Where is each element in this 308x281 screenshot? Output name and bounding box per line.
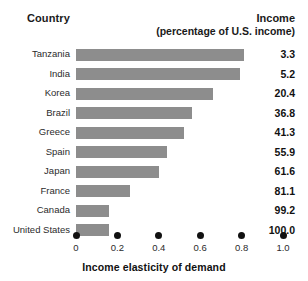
row-income-value: 41.3 <box>275 126 295 138</box>
x-axis-tick-dot <box>197 232 204 239</box>
x-axis-title: Income elasticity of demand <box>0 261 308 273</box>
row-income-value: 5.2 <box>280 68 295 80</box>
row-bar <box>76 49 244 61</box>
chart-row: Japan61.6 <box>0 163 308 183</box>
chart-header: Country Income (percentage of U.S. incom… <box>0 12 308 42</box>
row-bar <box>76 185 130 197</box>
column-header-income-subtitle: (percentage of U.S. income) <box>156 25 295 37</box>
row-country-label: Tanzania <box>32 48 70 60</box>
row-bar-track <box>76 107 192 119</box>
chart-row: Canada99.2 <box>0 202 308 222</box>
row-bar <box>76 68 240 80</box>
row-bar-track <box>76 146 167 158</box>
x-axis-tick-dot <box>114 232 121 239</box>
row-bar <box>76 146 167 158</box>
row-country-label: Brazil <box>46 107 70 119</box>
chart-row: Tanzania3.3 <box>0 46 308 66</box>
row-bar-track <box>76 88 213 100</box>
chart-row: Brazil36.8 <box>0 105 308 125</box>
row-bar-track <box>76 68 240 80</box>
row-income-value: 81.1 <box>275 185 295 197</box>
row-country-label: Korea <box>45 87 70 99</box>
column-header-income: Income <box>256 12 295 24</box>
x-axis-tick-dot <box>280 232 287 239</box>
row-country-label: Greece <box>39 126 70 138</box>
x-axis-tick-dot <box>73 232 80 239</box>
row-income-value: 99.2 <box>275 204 295 216</box>
row-bar-track <box>76 205 109 217</box>
row-bar-track <box>76 49 244 61</box>
chart-row: India5.2 <box>0 66 308 86</box>
row-income-value: 20.4 <box>275 87 295 99</box>
row-country-label: Japan <box>44 165 70 177</box>
row-bar <box>76 127 184 139</box>
x-axis-tick-label: 0.2 <box>103 242 131 253</box>
income-elasticity-chart: Country Income (percentage of U.S. incom… <box>0 0 308 281</box>
chart-row: Spain55.9 <box>0 144 308 164</box>
chart-row: France81.1 <box>0 183 308 203</box>
row-income-value: 36.8 <box>275 107 295 119</box>
column-header-country: Country <box>27 12 70 24</box>
x-axis-tick-label: 0.4 <box>145 242 173 253</box>
row-country-label: Canada <box>37 204 70 216</box>
x-axis-tick-label: 0.8 <box>228 242 256 253</box>
x-axis: 00.20.40.60.81.0 <box>0 232 308 258</box>
chart-row: Greece41.3 <box>0 124 308 144</box>
x-axis-tick-dot <box>238 232 245 239</box>
x-axis-tick-label: 1.0 <box>269 242 297 253</box>
row-bar <box>76 107 192 119</box>
row-income-value: 55.9 <box>275 146 295 158</box>
chart-row: Korea20.4 <box>0 85 308 105</box>
row-bar <box>76 205 109 217</box>
x-axis-tick-label: 0.6 <box>186 242 214 253</box>
row-bar <box>76 88 213 100</box>
row-country-label: Spain <box>46 146 70 158</box>
row-income-value: 3.3 <box>280 48 295 60</box>
row-country-label: France <box>40 185 70 197</box>
row-bar <box>76 166 159 178</box>
x-axis-tick-dot <box>155 232 162 239</box>
row-bar-track <box>76 127 184 139</box>
chart-rows: Tanzania3.3India5.2Korea20.4Brazil36.8Gr… <box>0 46 308 241</box>
row-bar-track <box>76 185 130 197</box>
row-bar-track <box>76 166 159 178</box>
x-axis-tick-label: 0 <box>62 242 90 253</box>
row-country-label: India <box>49 68 70 80</box>
row-income-value: 61.6 <box>275 165 295 177</box>
